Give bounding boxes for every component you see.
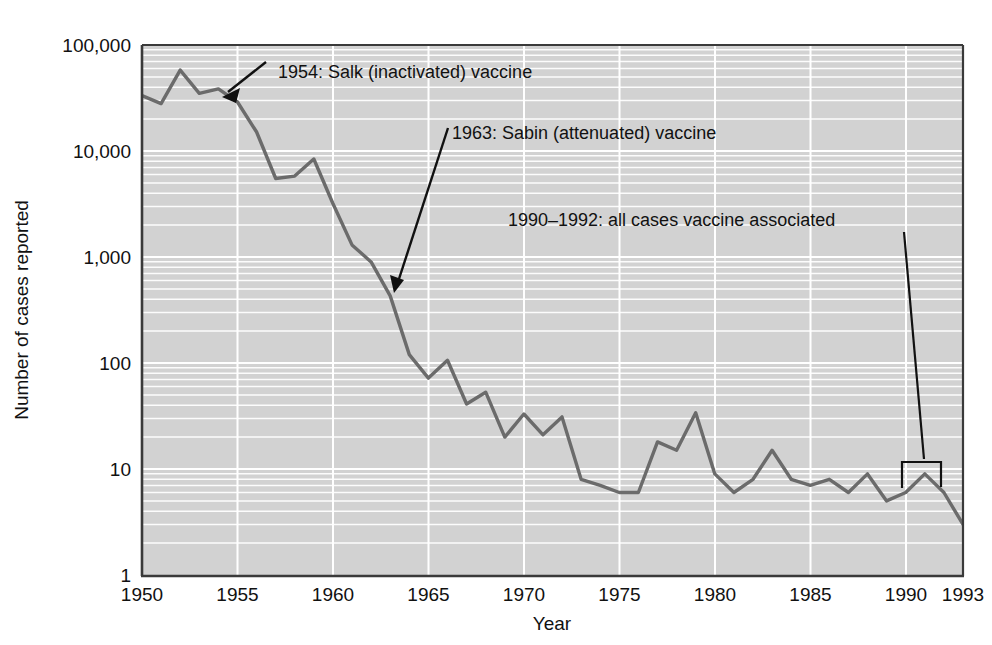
y-tick-label: 1,000 bbox=[83, 247, 131, 268]
polio-cases-chart: 100,000 10,000 1,000 100 10 1 1950 1955 … bbox=[0, 0, 992, 645]
x-tick-label: 1955 bbox=[216, 584, 258, 605]
x-tick-label: 1965 bbox=[407, 584, 449, 605]
x-tick-label: 1975 bbox=[598, 584, 640, 605]
x-tick-label: 1985 bbox=[789, 584, 831, 605]
x-tick-label: 1970 bbox=[503, 584, 545, 605]
x-tick-label: 1950 bbox=[121, 584, 163, 605]
x-axis-title: Year bbox=[533, 613, 572, 634]
x-tick-label: 1960 bbox=[312, 584, 354, 605]
y-axis-title: Number of cases reported bbox=[11, 200, 32, 420]
annotation-salk-label: 1954: Salk (inactivated) vaccine bbox=[278, 62, 532, 82]
x-tick-label: 1993 bbox=[942, 584, 984, 605]
y-tick-label: 1 bbox=[120, 565, 131, 586]
y-tick-label: 10 bbox=[110, 459, 131, 480]
annotation-sabin-label: 1963: Sabin (attenuated) vaccine bbox=[452, 123, 716, 143]
x-axis-ticks: 1950 1955 1960 1965 1970 1975 1980 1985 … bbox=[121, 584, 984, 605]
y-tick-label: 100 bbox=[99, 353, 131, 374]
y-tick-label: 10,000 bbox=[73, 141, 131, 162]
x-tick-label: 1980 bbox=[694, 584, 736, 605]
y-axis-ticks: 100,000 10,000 1,000 100 10 1 bbox=[62, 35, 131, 586]
annotation-vaccine-associated-label: 1990–1992: all cases vaccine associated bbox=[508, 210, 835, 230]
x-tick-label: 1990 bbox=[885, 584, 927, 605]
y-tick-label: 100,000 bbox=[62, 35, 131, 56]
chart-svg: 100,000 10,000 1,000 100 10 1 1950 1955 … bbox=[0, 0, 992, 645]
